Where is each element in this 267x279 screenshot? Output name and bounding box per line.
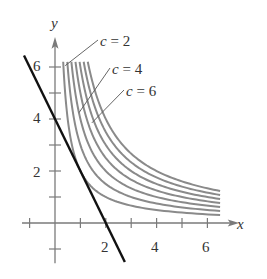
level-curve-c7 xyxy=(84,62,220,195)
level-curves-diagram: y x 2 4 6 2 4 6 c = 2 c = 4 c = 6 xyxy=(0,0,267,279)
annotation-c4: c = 4 xyxy=(112,61,143,77)
y-tick-label-4: 4 xyxy=(33,110,41,126)
x-tick-label-4: 4 xyxy=(151,239,159,255)
x-axis-label: x xyxy=(236,216,244,232)
annotation-c2: c = 2 xyxy=(100,33,130,49)
annotation-c6: c = 6 xyxy=(126,83,157,99)
y-axis-label: y xyxy=(49,15,58,31)
y-tick-label-6: 6 xyxy=(33,58,41,74)
x-tick-label-6: 6 xyxy=(202,239,210,255)
leader-c2 xyxy=(65,40,98,66)
x-tick-label-2: 2 xyxy=(101,239,109,255)
y-tick-label-2: 2 xyxy=(33,164,41,180)
